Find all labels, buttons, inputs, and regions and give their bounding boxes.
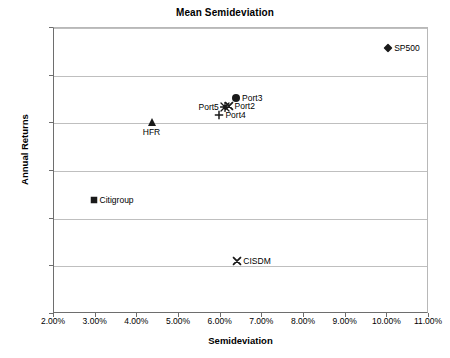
datapoint-label: Citigroup [100,196,134,205]
x-axis-tick-mark [178,313,179,317]
datapoint-label: HFR [143,128,160,137]
datapoint-label: CISDM [243,257,270,266]
plot-area: SP500Port3Port2Port5Port4HFRCitigroupCIS… [53,27,428,313]
x-marker-icon [233,256,242,265]
datapoint-label: SP500 [394,44,420,53]
x-axis-tick-mark [345,313,346,317]
y-axis-title: Annual Returns [19,70,30,230]
gridline-horizontal [54,76,427,77]
x-axis-tick-mark [261,313,262,317]
gridline-horizontal [54,219,427,220]
x-axis-title: Semideviation [53,335,428,346]
diamond-marker-icon [384,44,393,53]
chart-title: Mean Semideviation [0,7,450,18]
x-axis-tick-mark [386,313,387,317]
x-axis-tick-mark [428,313,429,317]
gridline-horizontal [54,266,427,267]
x-axis-tick-mark [53,313,54,317]
x-axis-tick-mark [220,313,221,317]
triangle-marker-icon [148,118,156,126]
gridline-horizontal [54,123,427,124]
x-axis-tick-mark [95,313,96,317]
gridline-horizontal [54,28,427,29]
x-axis-tick-label: 11.00% [398,316,450,326]
square-marker-icon [90,196,97,203]
x-axis-tick-mark [136,313,137,317]
x-axis-tick-mark [303,313,304,317]
plus-marker-icon [215,110,224,119]
gridline-horizontal [54,171,427,172]
scatter-chart: Mean Semideviation Annual Returns Semide… [0,0,450,358]
datapoint-label: Port4 [225,111,245,120]
